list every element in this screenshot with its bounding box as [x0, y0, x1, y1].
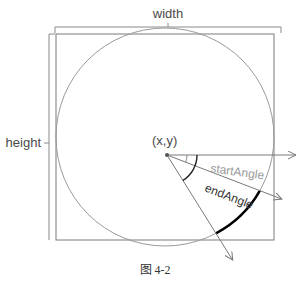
center-point [165, 153, 169, 157]
figure-caption: 图 4-2 [140, 263, 171, 277]
end-angle-marker [183, 155, 197, 180]
start-angle-label: startAngle [210, 161, 266, 182]
arc-diagram: width height (x,y) startAngle endAngle 图… [0, 0, 302, 285]
width-label: width [152, 6, 183, 21]
end-angle-label: endAngle [203, 181, 256, 212]
height-bracket [44, 34, 55, 240]
start-angle-marker [186, 155, 187, 162]
center-label: (x,y) [152, 133, 177, 148]
height-label: height [6, 135, 42, 150]
